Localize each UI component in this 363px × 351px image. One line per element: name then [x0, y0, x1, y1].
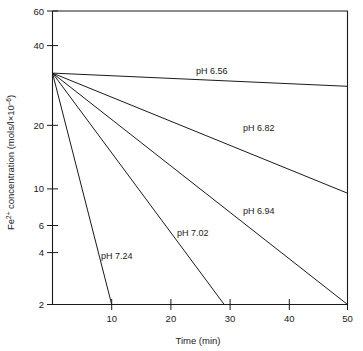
- series-labels: pH 6.56 pH 6.82 pH 6.94 pH 7.02 pH 7.24: [101, 66, 275, 261]
- y-axis-title-fe: Fe: [5, 219, 16, 230]
- series-label-ph-6-82: pH 6.82: [243, 123, 275, 133]
- y-axis-title: Fe2+ concentration (mols/l×10–6): [5, 95, 16, 230]
- x-tick-label-50: 50: [342, 313, 353, 324]
- chart-figure: 60 40 20 10 6 4 2 10 20 30 40 50 pH 6.56…: [0, 0, 363, 351]
- x-tick-label-10: 10: [106, 313, 117, 324]
- series-label-ph-7-02: pH 7.02: [177, 228, 209, 238]
- y-axis-title-close: ): [5, 95, 16, 98]
- svg-text:Fe2+ concentration (mols/l×10–: Fe2+ concentration (mols/l×10–6): [5, 95, 16, 230]
- y-tick-label-60: 60: [33, 6, 44, 17]
- x-axis-tick-labels: 10 20 30 40 50: [106, 313, 352, 324]
- series-line-ph-6-94: [53, 73, 348, 304]
- series-label-ph-7-24: pH 7.24: [101, 251, 133, 261]
- y-tick-label-6: 6: [39, 220, 44, 231]
- y-tick-label-2: 2: [39, 299, 44, 310]
- y-tick-label-4: 4: [39, 247, 44, 258]
- x-axis-title: Time (min): [175, 335, 220, 346]
- series-label-ph-6-56: pH 6.56: [196, 66, 228, 76]
- y-tick-label-10: 10: [33, 183, 44, 194]
- y-axis-title-mid: concentration (mols/l×10: [5, 105, 16, 211]
- y-axis-tick-labels: 60 40 20 10 6 4 2: [33, 6, 44, 311]
- plot-frame: [52, 11, 348, 305]
- series-label-ph-6-94: pH 6.94: [243, 206, 275, 216]
- x-tick-label-20: 20: [166, 313, 177, 324]
- y-tick-label-40: 40: [33, 40, 44, 51]
- data-series-group: [53, 73, 348, 304]
- x-tick-label-30: 30: [225, 313, 236, 324]
- y-tick-label-20: 20: [33, 120, 44, 131]
- series-line-ph-7-24: [53, 73, 112, 304]
- x-tick-label-40: 40: [284, 313, 295, 324]
